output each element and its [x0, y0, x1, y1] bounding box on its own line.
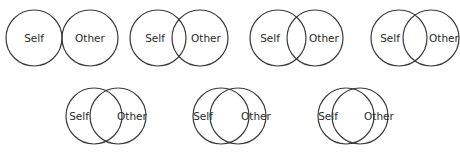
self-label: Self	[24, 32, 44, 44]
self-label: Self	[380, 32, 400, 44]
self-label: Self	[145, 32, 165, 44]
self-label: Self	[193, 110, 213, 122]
ios-diagram-5: SelfOther	[66, 88, 148, 144]
other-label: Other	[191, 32, 221, 44]
ios-diagram-6: SelfOther	[193, 88, 272, 144]
other-label: Other	[364, 110, 394, 122]
self-label: Self	[318, 110, 338, 122]
other-label: Other	[117, 110, 147, 122]
ios-diagram-4: SelfOther	[371, 10, 460, 66]
ios-diagram-2: SelfOther	[130, 10, 228, 66]
ios-diagram-7: SelfOther	[318, 88, 395, 144]
self-label: Self	[260, 32, 280, 44]
other-label: Other	[309, 32, 339, 44]
ios-diagram-1: SelfOther	[6, 10, 118, 66]
self-label: Self	[69, 110, 89, 122]
other-label: Other	[241, 110, 271, 122]
other-label: Other	[429, 32, 459, 44]
ios-diagram-3: SelfOther	[250, 10, 343, 66]
other-label: Other	[75, 32, 105, 44]
ios-scale-figure: SelfOtherSelfOtherSelfOtherSelfOtherSelf…	[0, 0, 460, 154]
